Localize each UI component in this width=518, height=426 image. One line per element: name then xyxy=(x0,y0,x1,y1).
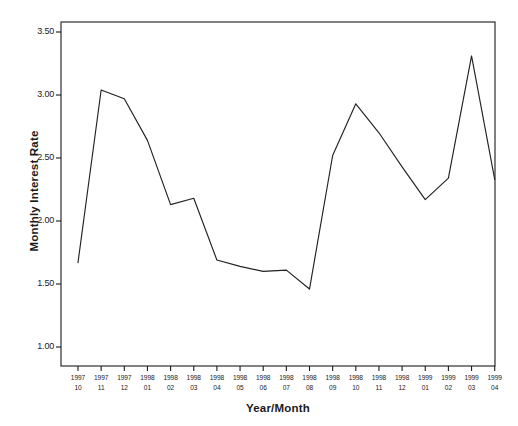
x-tick-year: 1998 xyxy=(134,373,160,383)
x-tick-month: 07 xyxy=(273,383,299,393)
x-tick-year: 1997 xyxy=(111,373,137,383)
y-tick-label: 3.50 xyxy=(20,26,54,36)
x-tick-year: 1999 xyxy=(435,373,461,383)
y-tick-label: 2.00 xyxy=(20,215,54,225)
x-tick-label: 199809 xyxy=(320,373,346,392)
x-tick-year: 1998 xyxy=(389,373,415,383)
x-tick-year: 1998 xyxy=(273,373,299,383)
x-tick-month: 10 xyxy=(343,383,369,393)
x-tick-label: 199804 xyxy=(204,373,230,392)
x-tick-month: 04 xyxy=(204,383,230,393)
x-tick-year: 1999 xyxy=(459,373,485,383)
x-tick-month: 12 xyxy=(111,383,137,393)
x-tick-year: 1998 xyxy=(343,373,369,383)
x-tick-label: 199805 xyxy=(227,373,253,392)
x-tick-label: 199901 xyxy=(412,373,438,392)
x-tick-label: 199711 xyxy=(88,373,114,392)
x-tick-year: 1999 xyxy=(412,373,438,383)
x-tick-month: 10 xyxy=(65,383,91,393)
x-tick-year: 1998 xyxy=(181,373,207,383)
x-tick-month: 09 xyxy=(320,383,346,393)
x-tick-label: 199710 xyxy=(65,373,91,392)
x-tick-month: 11 xyxy=(88,383,114,393)
x-tick-year: 1998 xyxy=(227,373,253,383)
plot-frame xyxy=(61,22,495,366)
x-tick-label: 199810 xyxy=(343,373,369,392)
x-tick-year: 1997 xyxy=(88,373,114,383)
x-tick-month: 11 xyxy=(366,383,392,393)
y-tick-label: 3.00 xyxy=(20,89,54,99)
x-tick-year: 1998 xyxy=(320,373,346,383)
plot-area xyxy=(0,0,518,426)
y-tick-label: 2.50 xyxy=(20,152,54,162)
x-tick-month: 05 xyxy=(227,383,253,393)
x-tick-month: 06 xyxy=(250,383,276,393)
x-tick-month: 12 xyxy=(389,383,415,393)
x-tick-label: 199802 xyxy=(158,373,184,392)
x-tick-label: 199903 xyxy=(459,373,485,392)
x-tick-label: 199801 xyxy=(134,373,160,392)
x-tick-label: 199807 xyxy=(273,373,299,392)
x-tick-label: 199712 xyxy=(111,373,137,392)
y-tick-label: 1.50 xyxy=(20,278,54,288)
x-tick-year: 1998 xyxy=(250,373,276,383)
x-tick-month: 04 xyxy=(482,383,508,393)
y-tick-label: 1.00 xyxy=(20,341,54,351)
x-tick-month: 02 xyxy=(435,383,461,393)
x-tick-year: 1998 xyxy=(297,373,323,383)
x-tick-month: 08 xyxy=(297,383,323,393)
x-tick-label: 199812 xyxy=(389,373,415,392)
x-tick-month: 01 xyxy=(134,383,160,393)
x-tick-year: 1998 xyxy=(366,373,392,383)
x-tick-label: 199902 xyxy=(435,373,461,392)
x-tick-year: 1999 xyxy=(482,373,508,383)
x-axis-title: Year/Month xyxy=(61,402,495,414)
x-tick-year: 1997 xyxy=(65,373,91,383)
x-tick-label: 199904 xyxy=(482,373,508,392)
x-tick-year: 1998 xyxy=(158,373,184,383)
x-tick-month: 03 xyxy=(459,383,485,393)
data-series-line xyxy=(78,56,495,289)
x-tick-year: 1998 xyxy=(204,373,230,383)
x-tick-label: 199803 xyxy=(181,373,207,392)
interest-rate-line-chart: Monthly Interest Rate Year/Month 1.001.5… xyxy=(0,0,518,426)
x-tick-month: 01 xyxy=(412,383,438,393)
x-tick-month: 03 xyxy=(181,383,207,393)
x-tick-month: 02 xyxy=(158,383,184,393)
x-tick-label: 199811 xyxy=(366,373,392,392)
x-tick-label: 199808 xyxy=(297,373,323,392)
x-tick-label: 199806 xyxy=(250,373,276,392)
